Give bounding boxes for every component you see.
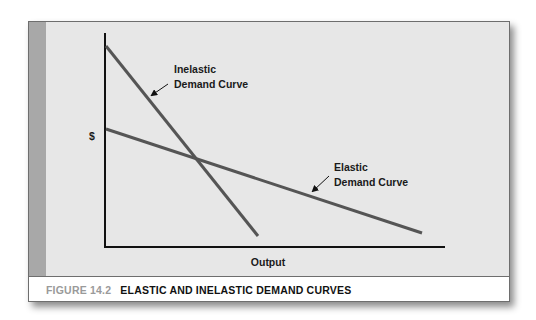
figure-caption: FIGURE 14.2 ELASTIC AND INELASTIC DEMAND…	[46, 284, 351, 296]
y-axis-label: $	[89, 130, 95, 142]
figure-title: ELASTIC AND INELASTIC DEMAND CURVES	[120, 284, 351, 296]
inelastic-arrow-icon	[152, 84, 168, 95]
elastic-label-line1: Elastic	[334, 161, 368, 173]
figure-number: FIGURE 14.2	[46, 284, 111, 296]
x-axis-label: Output	[251, 256, 286, 268]
inelastic-label-line2: Demand Curve	[174, 78, 248, 90]
demand-chart: $ Output Inelastic Demand Curve Elastic …	[29, 22, 509, 276]
elastic-arrow-icon	[313, 176, 329, 191]
elastic-label-line2: Demand Curve	[334, 176, 408, 188]
figure: $ Output Inelastic Demand Curve Elastic …	[28, 21, 510, 302]
plot-panel: $ Output Inelastic Demand Curve Elastic …	[29, 22, 509, 277]
inelastic-label-line1: Inelastic	[174, 63, 216, 75]
